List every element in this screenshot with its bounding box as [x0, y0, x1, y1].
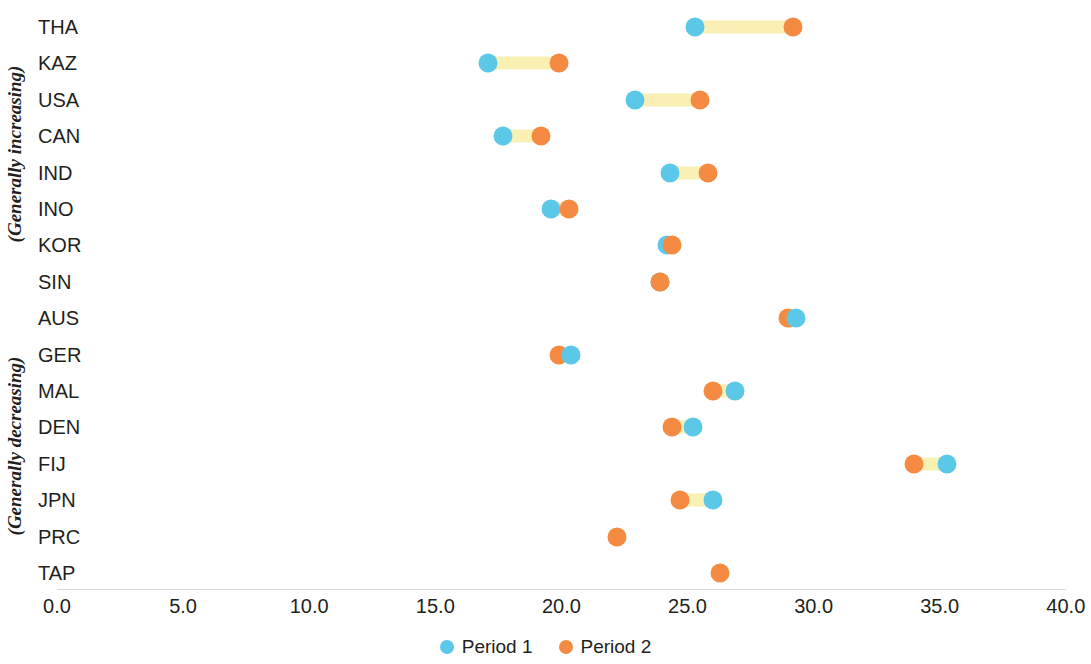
- data-point-ger-period-1[interactable]: [562, 345, 581, 364]
- plot-area: [0, 0, 1091, 588]
- data-point-den-period-1[interactable]: [683, 418, 702, 437]
- data-point-ino-period-2[interactable]: [559, 200, 578, 219]
- x-tick-label-0.0: 0.0: [43, 596, 71, 616]
- x-tick-label-10.0: 10.0: [290, 596, 329, 616]
- data-point-jpn-period-2[interactable]: [670, 491, 689, 510]
- x-axis-line: [57, 589, 1066, 590]
- data-point-mal-period-1[interactable]: [726, 382, 745, 401]
- data-point-fij-period-1[interactable]: [938, 454, 957, 473]
- data-point-aus-period-1[interactable]: [786, 309, 805, 328]
- dumbbell-chart: (Generally increasing) (Generally decrea…: [0, 0, 1091, 664]
- data-point-usa-period-1[interactable]: [625, 90, 644, 109]
- legend-item-period-1[interactable]: Period 1: [440, 636, 533, 658]
- x-tick-label-35.0: 35.0: [920, 596, 959, 616]
- legend-item-period-2[interactable]: Period 2: [559, 636, 652, 658]
- legend-swatch-icon: [559, 640, 573, 654]
- x-tick-label-20.0: 20.0: [542, 596, 581, 616]
- x-tick-label-40.0: 40.0: [1046, 596, 1085, 616]
- data-point-usa-period-2[interactable]: [691, 90, 710, 109]
- legend-label: Period 2: [581, 636, 652, 658]
- legend-label: Period 1: [462, 636, 533, 658]
- data-point-kor-period-2[interactable]: [663, 236, 682, 255]
- data-point-can-period-2[interactable]: [532, 127, 551, 146]
- data-point-kaz-period-1[interactable]: [479, 54, 498, 73]
- data-point-ino-period-1[interactable]: [542, 200, 561, 219]
- data-point-tha-period-1[interactable]: [686, 18, 705, 37]
- data-point-ind-period-2[interactable]: [698, 163, 717, 182]
- data-point-mal-period-2[interactable]: [703, 382, 722, 401]
- data-point-tap-period-2[interactable]: [711, 564, 730, 583]
- x-tick-label-5.0: 5.0: [169, 596, 197, 616]
- legend-swatch-icon: [440, 640, 454, 654]
- data-point-ind-period-1[interactable]: [660, 163, 679, 182]
- data-point-jpn-period-1[interactable]: [703, 491, 722, 510]
- data-point-prc-period-2[interactable]: [607, 527, 626, 546]
- data-point-kaz-period-2[interactable]: [549, 54, 568, 73]
- data-point-tha-period-2[interactable]: [784, 18, 803, 37]
- connector-band-kaz: [488, 57, 559, 70]
- data-point-fij-period-2[interactable]: [905, 454, 924, 473]
- data-point-den-period-2[interactable]: [663, 418, 682, 437]
- data-point-sin-period-2[interactable]: [650, 272, 669, 291]
- x-tick-label-15.0: 15.0: [416, 596, 455, 616]
- chart-legend: Period 1Period 2: [0, 636, 1091, 658]
- x-tick-label-30.0: 30.0: [794, 596, 833, 616]
- connector-band-tha: [695, 21, 793, 34]
- data-point-can-period-1[interactable]: [494, 127, 513, 146]
- x-tick-label-25.0: 25.0: [668, 596, 707, 616]
